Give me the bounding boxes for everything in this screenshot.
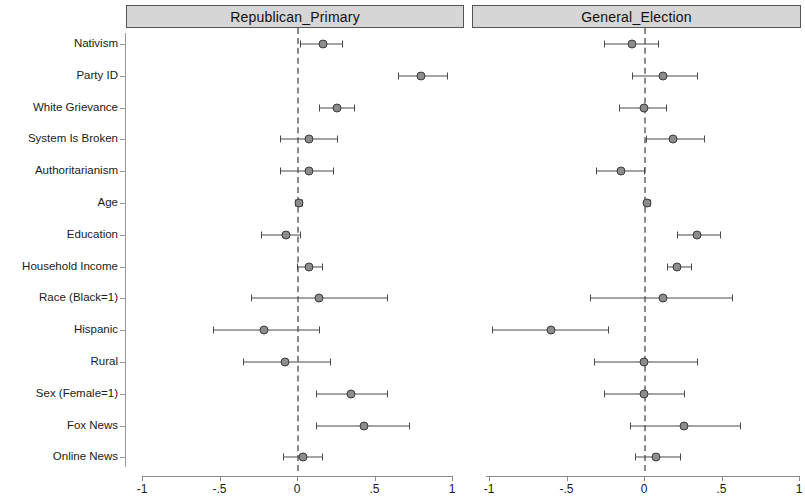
x-axis-tick-label: 1 [796, 482, 803, 496]
estimate-point-marker [658, 294, 667, 303]
y-axis-tick [120, 76, 125, 77]
x-axis-tick [375, 476, 376, 481]
y-axis-tick [120, 139, 125, 140]
estimate-point-marker [305, 167, 314, 176]
x-axis-general-election [486, 476, 800, 477]
panel-title-text: General_Election [581, 9, 692, 25]
confidence-interval-cap [447, 72, 448, 79]
confidence-interval-cap [658, 41, 659, 48]
x-axis-tick-label: 1 [449, 482, 456, 496]
confidence-interval-cap [594, 359, 595, 366]
confidence-interval-cap [283, 454, 284, 461]
confidence-interval-cap [337, 136, 338, 143]
estimate-point-marker [282, 230, 291, 239]
confidence-interval-cap [691, 263, 692, 270]
confidence-interval-cap [251, 295, 252, 302]
confidence-interval-cap [398, 72, 399, 79]
confidence-interval-cap [387, 390, 388, 397]
confidence-interval-cap [342, 41, 343, 48]
x-axis-tick [567, 476, 568, 481]
confidence-interval-cap [604, 41, 605, 48]
estimate-point-marker [260, 326, 269, 335]
y-axis-tick [120, 267, 125, 268]
confidence-interval-cap [684, 390, 685, 397]
confidence-interval-cap [280, 136, 281, 143]
confidence-interval-cap [646, 136, 647, 143]
y-axis-tick [120, 171, 125, 172]
confidence-interval-cap [300, 231, 301, 238]
estimate-point-marker [672, 262, 681, 271]
estimate-point-marker [658, 71, 667, 80]
confidence-interval-cap [635, 454, 636, 461]
panel-header-general-election: General_Election [472, 5, 801, 28]
estimate-point-marker [319, 40, 328, 49]
estimate-point-marker [314, 294, 323, 303]
plot-area-general-election [472, 28, 801, 471]
confidence-interval-cap [319, 104, 320, 111]
x-axis-tick-label: -.5 [559, 482, 573, 496]
confidence-interval-cap [667, 263, 668, 270]
y-axis-tick [120, 426, 125, 427]
estimate-point-marker [359, 421, 368, 430]
estimate-point-marker [333, 103, 342, 112]
confidence-interval-cap [732, 295, 733, 302]
confidence-interval-cap [680, 454, 681, 461]
x-axis-tick-label: 0 [294, 482, 301, 496]
y-axis-label: Fox News [67, 420, 118, 432]
estimate-point-marker [680, 421, 689, 430]
x-axis-tick-label: .5 [716, 482, 726, 496]
estimate-point-marker [643, 199, 652, 208]
estimate-point-marker [280, 358, 289, 367]
estimate-point-marker [640, 389, 649, 398]
y-axis-tick [120, 203, 125, 204]
y-axis-label: Age [98, 197, 118, 209]
confidence-interval-cap [297, 263, 298, 270]
x-axis-tick-label: -.5 [212, 482, 226, 496]
confidence-interval-cap [213, 327, 214, 334]
estimate-point-marker [294, 199, 303, 208]
x-axis-tick [142, 476, 143, 481]
confidence-interval-cap [280, 168, 281, 175]
confidence-interval-cap [632, 72, 633, 79]
confidence-interval-cap [261, 231, 262, 238]
x-axis-tick-label: -1 [484, 482, 495, 496]
zero-reference-line [644, 28, 646, 471]
confidence-interval-cap [333, 168, 334, 175]
y-axis-label: Household Income [22, 261, 118, 273]
y-axis-label: Race (Black=1) [39, 293, 118, 305]
plot-area-republican-primary [126, 28, 464, 471]
x-axis-tick [297, 476, 298, 481]
estimate-point-marker [640, 358, 649, 367]
y-axis-tick [120, 108, 125, 109]
y-axis-label: Rural [91, 356, 118, 368]
x-axis-tick-label: .5 [369, 482, 379, 496]
confidence-interval-cap [740, 422, 741, 429]
estimate-point-marker [299, 453, 308, 462]
estimate-point-marker [692, 230, 701, 239]
y-axis-label: Hispanic [74, 324, 118, 336]
x-axis-tick [452, 476, 453, 481]
x-axis-tick-label: -1 [137, 482, 148, 496]
estimate-point-marker [627, 40, 636, 49]
estimate-point-marker [547, 326, 556, 335]
panel-title-text: Republican_Primary [230, 9, 360, 25]
confidence-interval-cap [316, 390, 317, 397]
y-axis-tick [120, 235, 125, 236]
y-axis-label: White Grievance [33, 102, 118, 114]
confidence-interval-cap [409, 422, 410, 429]
confidence-interval-cap [720, 231, 721, 238]
y-axis-label: Sex (Female=1) [36, 388, 118, 400]
estimate-point-marker [305, 262, 314, 271]
y-axis-label: System Is Broken [28, 134, 118, 146]
estimate-point-marker [652, 453, 661, 462]
panel-header-republican-primary: Republican_Primary [126, 5, 464, 28]
x-axis-tick [489, 476, 490, 481]
confidence-interval-cap [319, 327, 320, 334]
y-axis-label: Nativism [74, 38, 118, 50]
confidence-interval-cap [619, 104, 620, 111]
y-axis-tick [120, 394, 125, 395]
confidence-interval-cap [666, 104, 667, 111]
confidence-interval-cap [330, 359, 331, 366]
confidence-interval-cap [608, 327, 609, 334]
x-axis-tick-label: 0 [641, 482, 648, 496]
